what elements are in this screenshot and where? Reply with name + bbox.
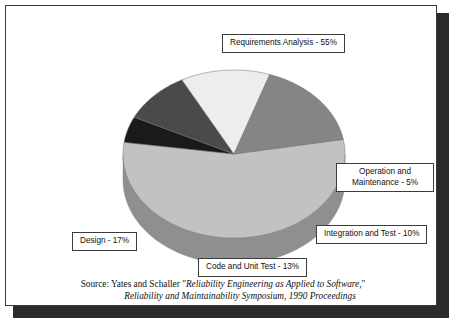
source-prefix: Source: Yates and Schaller: [81, 279, 182, 289]
figure-page: Requirements Analysis - 55% Operation an…: [0, 0, 451, 320]
pie-label-code-and-unit-test[interactable]: Code and Unit Test - 13%: [198, 258, 307, 277]
source-citation: Source: Yates and Schaller "Reliability …: [18, 278, 428, 302]
pie-label-requirements-analysis[interactable]: Requirements Analysis - 55%: [222, 34, 345, 53]
pie-label-design[interactable]: Design - 17%: [72, 232, 137, 251]
pie-label-operation-and-maintenance[interactable]: Operation and Maintenance - 5%: [336, 163, 434, 192]
source-title-first: Reliability Engineering as Applied to So…: [186, 279, 362, 289]
source-citation-line-1: Source: Yates and Schaller "Reliability …: [18, 278, 428, 290]
quote-close: ": [362, 279, 366, 289]
pie-label-integration-and-test[interactable]: Integration and Test - 10%: [316, 225, 427, 244]
figure-frame: Requirements Analysis - 55% Operation an…: [5, 5, 437, 306]
source-citation-line-2: Reliability and Maintainability Symposiu…: [18, 290, 428, 302]
